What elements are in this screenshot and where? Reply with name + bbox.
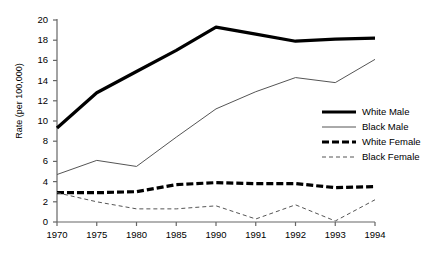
y-tick-label: 6: [24, 155, 48, 166]
y-tick-label: 4: [24, 176, 48, 187]
legend-swatch-black-male: [322, 122, 356, 132]
x-tick-label: 1970: [37, 229, 77, 240]
x-tick-label: 1994: [355, 229, 395, 240]
legend-item: White Female: [322, 134, 421, 149]
legend-label-white-male: White Male: [362, 106, 410, 117]
legend-swatch-white-male: [322, 107, 356, 117]
x-tick-label: 1975: [77, 229, 117, 240]
y-tick-label: 12: [24, 95, 48, 106]
line-chart: Rate (per 100,000) 02468101214161820 197…: [0, 0, 437, 257]
y-tick-label: 20: [24, 14, 48, 25]
legend-swatch-black-female: [322, 152, 356, 162]
x-tick-label: 1991: [236, 229, 276, 240]
x-tick-label: 1985: [156, 229, 196, 240]
y-tick-label: 8: [24, 135, 48, 146]
series-line-white-female: [57, 183, 375, 193]
legend-item: Black Male: [322, 119, 421, 134]
series-line-black-female: [57, 193, 375, 221]
x-tick-label: 1990: [196, 229, 236, 240]
legend-label-black-male: Black Male: [362, 121, 408, 132]
legend-item: Black Female: [322, 149, 421, 164]
legend-label-white-female: White Female: [362, 136, 421, 147]
x-tick-label: 1980: [117, 229, 157, 240]
y-tick-label: 16: [24, 54, 48, 65]
legend-swatch-white-female: [322, 137, 356, 147]
chart-legend: White Male Black Male White Female Black…: [322, 104, 421, 164]
y-tick-label: 2: [24, 196, 48, 207]
y-tick-label: 0: [24, 216, 48, 227]
legend-label-black-female: Black Female: [362, 151, 420, 162]
legend-item: White Male: [322, 104, 421, 119]
y-tick-label: 10: [24, 115, 48, 126]
y-tick-label: 18: [24, 34, 48, 45]
x-tick-label: 1992: [276, 229, 316, 240]
y-tick-label: 14: [24, 75, 48, 86]
x-tick-label: 1993: [315, 229, 355, 240]
